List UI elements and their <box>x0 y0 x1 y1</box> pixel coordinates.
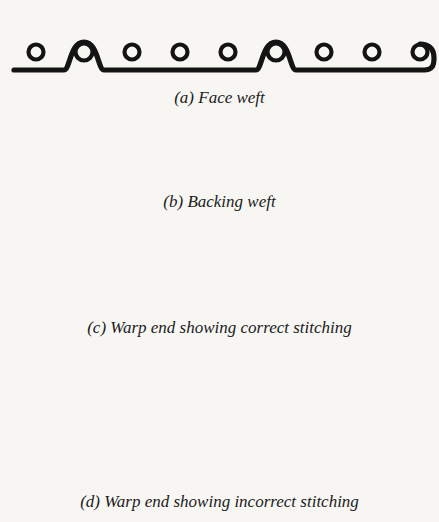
panel-a-face-weft <box>14 42 434 70</box>
figure-drawing <box>0 0 439 522</box>
warp-end-node <box>317 45 332 60</box>
caption-panel-c: (c) Warp end showing correct stitching <box>0 318 439 338</box>
figure-weft-backed-fabric: (a) Face weft (b) Backing weft (c) Warp … <box>0 0 439 522</box>
warp-end-node <box>365 45 380 60</box>
warp-end-node <box>173 45 188 60</box>
warp-end-node <box>125 45 140 60</box>
caption-panel-d: (d) Warp end showing incorrect stitching <box>0 492 439 512</box>
caption-panel-b: (b) Backing weft <box>0 192 439 212</box>
warp-end-node <box>221 45 236 60</box>
warp-end-node <box>29 45 44 60</box>
caption-panel-a: (a) Face weft <box>0 88 439 108</box>
